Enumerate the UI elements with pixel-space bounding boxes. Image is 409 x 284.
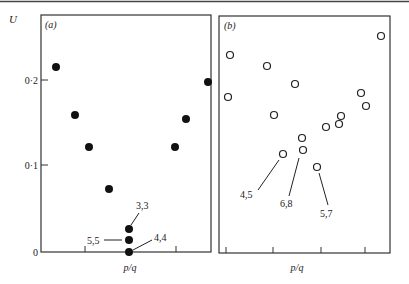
- data-point: [182, 115, 190, 123]
- leader-3-3: [131, 213, 139, 225]
- annotation-5-7: 5,7: [320, 208, 333, 219]
- data-point: [105, 185, 113, 193]
- data-point: [314, 164, 321, 171]
- data-point: [125, 236, 133, 244]
- chart-figure: U (a) 0·2 0·1 0 p/q 3,3 5,: [0, 0, 409, 284]
- data-point: [378, 33, 385, 40]
- x-axis-label-b: p/q: [290, 262, 304, 273]
- data-point: [225, 94, 232, 101]
- annotation-4-5: 4,5: [240, 189, 253, 200]
- panel-a-label: (a): [45, 19, 57, 31]
- data-point: [227, 52, 234, 59]
- leader-4-5: [258, 160, 279, 190]
- data-point: [280, 151, 287, 158]
- data-point: [52, 63, 60, 71]
- data-point: [336, 121, 343, 128]
- x-axis-label-a: p/q: [123, 262, 137, 273]
- ytick-label-0: 0: [33, 247, 38, 258]
- series-b-points: [225, 33, 385, 171]
- data-point: [323, 124, 330, 131]
- series-a-points: [52, 63, 212, 256]
- data-point: [363, 103, 370, 110]
- ytick-label-01: 0·1: [25, 160, 38, 171]
- data-point: [299, 135, 306, 142]
- leader-5-7: [319, 173, 328, 205]
- panel-b-frame: [219, 16, 390, 253]
- data-point: [300, 147, 307, 154]
- data-point: [71, 111, 79, 119]
- data-point: [171, 143, 179, 151]
- annotation-6-8: 6,8: [280, 198, 293, 209]
- data-point: [85, 143, 93, 151]
- panel-a: (a) 0·2 0·1 0 p/q 3,3 5,5 4,4: [25, 15, 212, 273]
- annotation-5-5: 5,5: [87, 235, 100, 246]
- data-point: [264, 63, 271, 70]
- y-axis-label: U: [9, 13, 18, 25]
- panel-a-frame: [41, 15, 211, 252]
- panel-b: (b) p/q 4,5 6,8: [219, 16, 390, 273]
- leader-6-8: [289, 158, 299, 196]
- data-point: [271, 112, 278, 119]
- leader-4-4: [133, 240, 152, 250]
- data-point: [204, 78, 212, 86]
- ytick-label-02: 0·2: [25, 75, 38, 86]
- data-point: [125, 225, 133, 233]
- data-point: [125, 248, 133, 256]
- annotation-4-4: 4,4: [154, 232, 167, 243]
- annotation-3-3: 3,3: [136, 200, 149, 211]
- data-point: [338, 113, 345, 120]
- data-point: [292, 81, 299, 88]
- panel-b-label: (b): [224, 20, 236, 32]
- data-point: [358, 90, 365, 97]
